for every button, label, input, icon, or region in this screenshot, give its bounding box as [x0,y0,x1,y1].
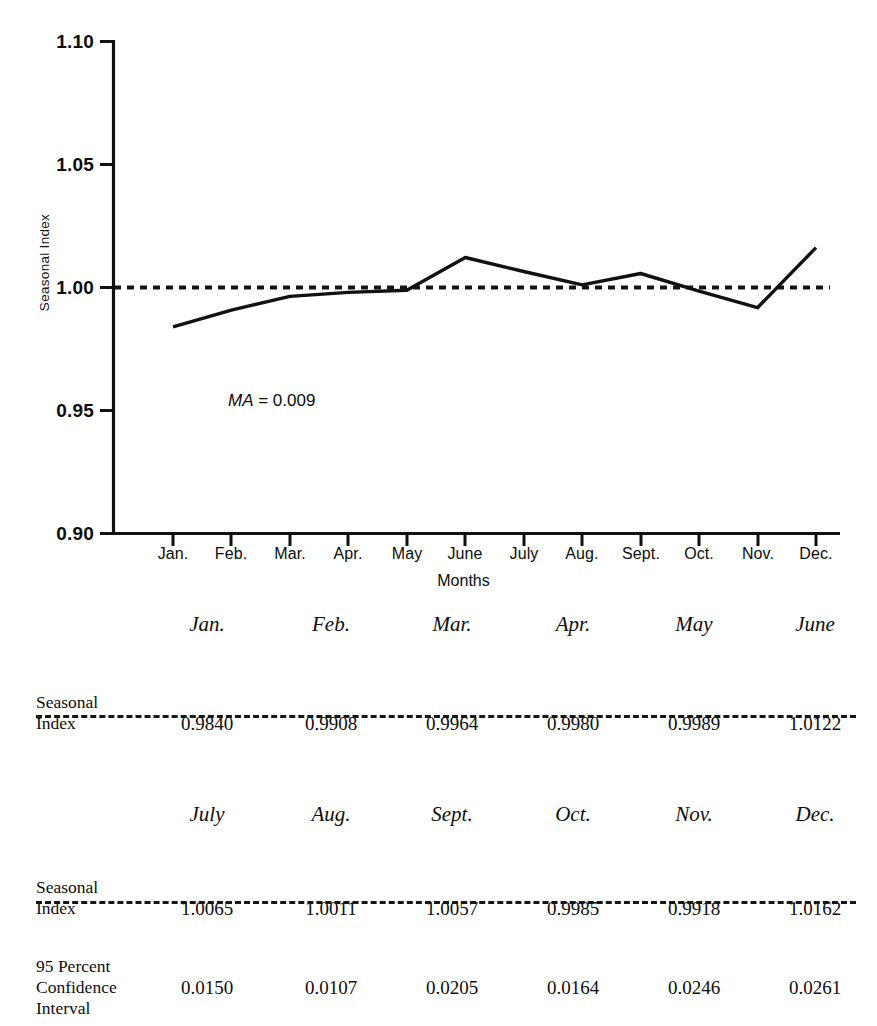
ma-annotation: MA = 0.009 [228,391,315,411]
column-header: Dec. [755,802,875,827]
x-axis-title-wrap: Months [0,572,877,590]
column-header: June [755,612,875,637]
x-tick-label-dec: Dec. [781,545,851,563]
column-header: Sept. [392,802,512,827]
header-row: July Aug. Sept. Oct. Nov. Dec. [0,802,877,838]
row-label-seasonal-index: Seasonal Index [36,692,98,734]
seasonal-index-table: Jan. Feb. Mar. Apr. May June Seasonal In… [0,612,877,1026]
column-header: Feb. [271,612,391,637]
ma-value: = 0.009 [254,391,316,410]
table-divider [36,901,856,904]
column-header: Oct. [513,802,633,827]
column-header: May [634,612,754,637]
seasonal-index-row: Seasonal Index 1.0065 1.0011 1.0057 0.99… [0,838,877,1026]
y-tick-label: 1.05 [22,154,94,176]
plot-area [0,0,877,600]
table-block-second-half: July Aug. Sept. Oct. Nov. Dec. Seasonal … [0,802,877,1002]
y-tick-label: 1.10 [22,31,94,53]
table-block-first-half: Jan. Feb. Mar. Apr. May June Seasonal In… [0,612,877,808]
column-header: July [147,802,267,827]
seasonal-index-chart: Seasonal Index [0,0,877,600]
y-tick-label: 0.90 [22,523,94,545]
row-label-seasonal-index: Seasonal Index [36,877,98,919]
ma-symbol: MA [228,391,254,410]
header-row: Jan. Feb. Mar. Apr. May June [0,612,877,648]
column-header: Aug. [271,802,391,827]
column-header: Jan. [147,612,267,637]
table-divider [36,715,856,718]
column-header: Mar. [392,612,512,637]
x-axis-title: Months [437,572,489,590]
y-tick-label: 0.95 [22,400,94,422]
column-header: Apr. [513,612,633,637]
y-tick-label: 1.00 [22,277,94,299]
column-header: Nov. [634,802,754,827]
